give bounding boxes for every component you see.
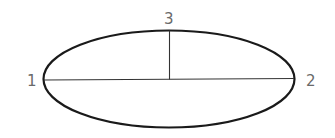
point-label-1: 1 (27, 72, 37, 90)
ellipse-diagram: 1 2 3 (0, 0, 335, 138)
point-label-3: 3 (164, 10, 174, 28)
point-label-2: 2 (306, 72, 316, 90)
